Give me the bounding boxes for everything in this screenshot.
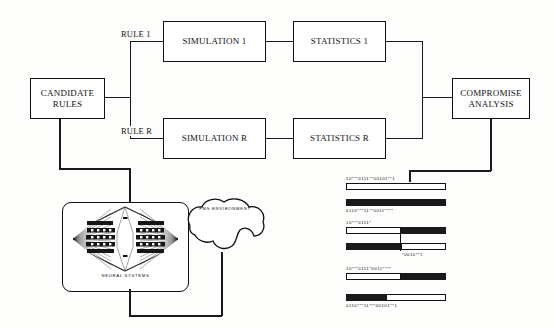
ga-bar-parent-a-top bbox=[346, 183, 446, 190]
edge-fms-down bbox=[221, 252, 223, 316]
edge-candidate-right bbox=[59, 168, 130, 170]
edge-candidate-to-bus bbox=[105, 97, 131, 98]
node-statistics-1[interactable]: STATISTICS 1 bbox=[293, 21, 386, 62]
edge-bus-to-rule1 bbox=[130, 41, 164, 42]
edge-rightbus-to-compromise bbox=[422, 97, 453, 98]
ga-bar-child-b-left bbox=[346, 294, 386, 301]
genetic-crossover-block: 10***0111**00101**1 0110***11**0011**** … bbox=[336, 176, 468, 321]
ga-bar-child-a-left bbox=[346, 273, 401, 280]
edge-bus-to-ruler bbox=[130, 138, 164, 139]
diagram-canvas: CANDIDATERULES SIMULATION 1 STATISTICS 1… bbox=[0, 0, 554, 329]
node-statistics-r-label: STATISTICS R bbox=[308, 133, 371, 143]
node-candidate-rules-label: CANDIDATERULES bbox=[39, 88, 96, 108]
ga-bar-parent-b-top bbox=[346, 199, 446, 206]
edge-neural-down bbox=[129, 289, 131, 317]
ga-bar-cross-a-right bbox=[401, 227, 446, 234]
node-compromise-analysis-label: COMPROMISEANALYSIS bbox=[458, 88, 524, 108]
edge-sim1-to-stat1 bbox=[265, 41, 294, 42]
ga-string-cross-a: 10***0111* bbox=[346, 220, 371, 225]
ga-bar-child-b-right bbox=[386, 294, 446, 301]
edge-stat1-to-rightbus bbox=[385, 41, 423, 42]
edge-label-rule-1: RULE 1 bbox=[120, 29, 152, 39]
edge-label-rule-r: RULE R bbox=[120, 126, 153, 136]
ga-bar-cross-b-left bbox=[346, 243, 401, 250]
edge-compromise-down bbox=[490, 119, 492, 171]
ga-string-cross-b: *0010**1 bbox=[402, 252, 423, 257]
node-statistics-1-label: STATISTICS 1 bbox=[309, 36, 370, 46]
node-simulation-1[interactable]: SIMULATION 1 bbox=[163, 21, 266, 62]
ga-bar-cross-b-right bbox=[401, 243, 446, 250]
node-simulation-r-label: SIMULATION R bbox=[180, 133, 250, 143]
ga-string-child-a: 10***0111*0011**** bbox=[346, 266, 391, 271]
edge-candidate-down bbox=[59, 119, 61, 169]
edge-vertical-bus bbox=[130, 41, 131, 139]
ga-bar-child-a-right bbox=[401, 273, 446, 280]
node-candidate-rules[interactable]: CANDIDATERULES bbox=[30, 78, 105, 119]
ga-string-child-b: 0110***11***00101**1 bbox=[346, 303, 397, 308]
node-simulation-r[interactable]: SIMULATION R bbox=[163, 118, 266, 159]
ga-string-parent-b-top: 0110***11**0011**** bbox=[346, 208, 393, 213]
neural-systems-panel[interactable]: NEURAL SYSTEMS bbox=[62, 202, 189, 292]
ga-bar-cross-a-left bbox=[346, 227, 401, 234]
edge-statr-to-rightbus bbox=[385, 138, 423, 139]
edge-right-vertical-bus bbox=[422, 41, 423, 139]
ga-string-parent-a-top: 10***0111**00101**1 bbox=[346, 176, 395, 181]
node-compromise-analysis[interactable]: COMPROMISEANALYSIS bbox=[452, 78, 530, 119]
edge-compromise-left bbox=[409, 170, 491, 172]
edge-simr-to-statr bbox=[265, 138, 294, 139]
neural-systems-caption: NEURAL SYSTEMS bbox=[63, 273, 188, 278]
edge-bottom-return bbox=[129, 315, 222, 317]
node-statistics-r[interactable]: STATISTICS R bbox=[293, 118, 386, 159]
fms-environment-label: FMS ENVIRONMENT bbox=[183, 206, 267, 211]
neural-network-illustration bbox=[63, 203, 188, 275]
node-simulation-1-label: SIMULATION 1 bbox=[180, 36, 248, 46]
